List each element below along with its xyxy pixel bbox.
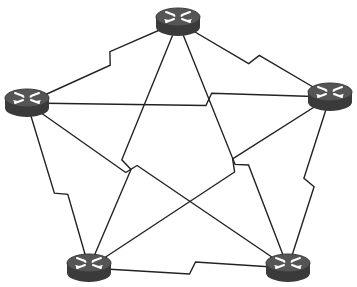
router-icon <box>5 89 49 117</box>
router-r1[interactable] <box>156 8 200 36</box>
router-icon <box>156 8 200 36</box>
serial-link-r2-r4 <box>27 103 89 268</box>
router-r3[interactable] <box>308 83 352 111</box>
router-r4[interactable] <box>67 254 111 282</box>
router-icon <box>67 254 111 282</box>
network-diagram <box>0 0 357 287</box>
links-layer <box>27 22 330 274</box>
nodes-layer <box>5 8 352 282</box>
router-icon <box>308 83 352 111</box>
serial-link-r2-r3 <box>27 93 330 105</box>
router-r5[interactable] <box>266 254 310 282</box>
serial-link-r4-r5 <box>89 262 288 274</box>
serial-link-r1-r3 <box>178 22 330 97</box>
serial-link-r2-r5 <box>27 103 288 268</box>
serial-link-r3-r5 <box>288 97 330 268</box>
router-icon <box>266 254 310 282</box>
serial-link-r1-r2 <box>27 22 178 103</box>
router-r2[interactable] <box>5 89 49 117</box>
serial-link-r1-r4 <box>89 22 178 268</box>
